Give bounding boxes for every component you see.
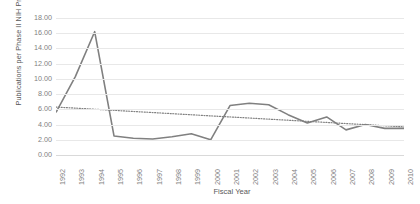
x-tick-label: 1992: [59, 169, 66, 185]
y-tick-label: 14.00: [16, 44, 52, 51]
x-tick-label: 1995: [117, 169, 124, 185]
x-tick-label: 2002: [252, 169, 259, 185]
x-tick-label: 1994: [98, 169, 105, 185]
gridline: [56, 140, 404, 141]
gridline: [56, 109, 404, 110]
gridline: [56, 48, 404, 49]
x-tick-label: 1993: [78, 169, 85, 185]
y-tick-label: 16.00: [16, 29, 52, 36]
x-tick-label: 2000: [214, 169, 221, 185]
x-tick-label: 2003: [272, 169, 279, 185]
x-axis-title-text: Fiscal Year: [213, 187, 250, 196]
gridline: [56, 79, 404, 80]
plot-lines: [56, 18, 404, 155]
x-tick-label: 2005: [310, 169, 317, 185]
x-axis-title: Fiscal Year: [0, 187, 420, 196]
x-tick-label: 2010: [407, 169, 414, 185]
x-tick-label: 2001: [233, 169, 240, 185]
x-tick-label: 1997: [156, 169, 163, 185]
gridline: [56, 94, 404, 95]
y-tick-label: 10.00: [16, 75, 52, 82]
line-chart: Publications per Phase II NIH Project 18…: [0, 0, 420, 204]
y-tick-label: 6.00: [16, 105, 52, 112]
x-tick-label: 2004: [291, 169, 298, 185]
y-axis-tick-labels: 18.0016.0014.0012.0010.008.006.004.002.0…: [16, 18, 52, 155]
y-tick-label: 12.00: [16, 60, 52, 67]
y-tick-label: 0.00: [16, 151, 52, 158]
y-tick-label: 8.00: [16, 90, 52, 97]
gridline: [56, 125, 404, 126]
x-axis-tick-labels: 1992199319941995199619971998199920002001…: [56, 157, 404, 187]
y-tick-label: 18.00: [16, 14, 52, 21]
x-tick-label: 1998: [175, 169, 182, 185]
y-tick-label: 4.00: [16, 121, 52, 128]
x-axis-line: [56, 155, 404, 156]
y-tick-label: 2.00: [16, 136, 52, 143]
x-tick-label: 2008: [368, 169, 375, 185]
gridline: [56, 64, 404, 65]
x-tick-label: 1999: [194, 169, 201, 185]
gridline: [56, 18, 404, 19]
x-tick-label: 2009: [388, 169, 395, 185]
x-tick-label: 2006: [330, 169, 337, 185]
plot-area: [56, 18, 404, 155]
gridline: [56, 33, 404, 34]
x-tick-label: 2007: [349, 169, 356, 185]
x-tick-label: 1996: [136, 169, 143, 185]
